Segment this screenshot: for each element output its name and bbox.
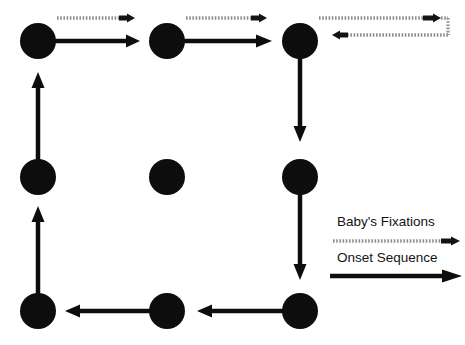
arrow-top-right-to-middle-right <box>294 47 307 142</box>
fixation-arrow-top-right-uturn <box>319 14 448 40</box>
legend-label-babys-fixations: Baby's Fixations <box>337 214 435 229</box>
arrow-middle-left-to-top-left <box>32 72 45 171</box>
baby-fixation-arrows <box>57 14 448 40</box>
legend-marker-solid-arrow <box>330 270 462 283</box>
legend-label-onset-sequence: Onset Sequence <box>337 250 438 265</box>
arrow-bottom-left-to-middle-left <box>32 206 45 305</box>
legend: Baby's Fixations Onset Sequence <box>330 214 462 283</box>
dot-middle-left <box>20 159 56 195</box>
dot-bottom-center <box>149 293 185 329</box>
dot-bottom-right <box>282 293 318 329</box>
dot-top-right <box>282 23 318 59</box>
arrow-bottom-right-to-bottom-center <box>197 305 294 318</box>
stimulus-dots <box>20 23 318 329</box>
legend-marker-dotted-arrow <box>333 237 460 246</box>
diagram-canvas: Baby's Fixations Onset Sequence <box>0 0 465 345</box>
diagram-svg: Baby's Fixations Onset Sequence <box>0 0 465 345</box>
dot-top-center <box>149 23 185 59</box>
dot-middle-center <box>149 159 185 195</box>
dot-middle-right <box>282 159 318 195</box>
dot-top-left <box>20 23 56 59</box>
dot-bottom-left <box>20 293 56 329</box>
arrow-bottom-center-to-bottom-left <box>65 305 161 318</box>
arrow-middle-right-to-bottom-right <box>294 183 307 280</box>
arrow-top-left-to-top-center <box>44 35 140 48</box>
fixation-arrow-top-left <box>57 14 135 23</box>
fixation-arrow-top-center <box>186 14 267 23</box>
arrow-top-center-to-top-right <box>173 35 272 48</box>
